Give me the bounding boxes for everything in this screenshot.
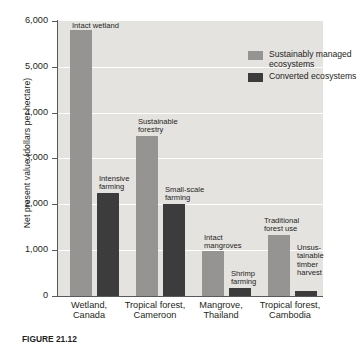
bar-traditional-forest-use [268,235,290,296]
y-tick-label-2000: 2,000 [25,198,48,208]
legend-label-sustainably-managed: Sustainably managed ecosystems [269,50,352,69]
bar-small-scale-farming [163,204,185,296]
y-tick-1000 [52,250,57,251]
y-tick-label-4000: 4,000 [25,107,48,117]
bar-intact-wetland [70,30,92,296]
annotation-unsustainable-timber-harvest: Unsus- tainable timber harvest [297,244,324,278]
legend-item-sustainably-managed: Sustainably managed ecosystems [248,50,361,69]
gridline-4000 [58,113,323,114]
bar-sustainable-forestry [136,136,158,296]
legend-swatch-sustainably-managed [248,51,263,60]
plot-area: Sustainably managed ecosystems Converted… [58,21,323,296]
annotation-intensive-farming: Intensive farming [99,175,129,192]
y-tick-label-3000: 3,000 [25,152,48,162]
y-tick-2000 [52,204,57,205]
y-tick-label-0: 0 [43,290,48,300]
x-category-label-tropical-forest-cambodia: Tropical forest, Cambodia [252,300,328,321]
annotation-shrimp-farming: Shrimp farming [231,270,256,287]
y-axis-line [57,20,58,297]
legend-label-converted: Converted ecosystems [269,72,356,82]
y-tick-label-6000: 6,000 [25,15,48,25]
y-tick-6000 [52,21,57,22]
y-tick-label-5000: 5,000 [25,61,48,71]
legend: Sustainably managed ecosystems Converted… [248,50,361,85]
annotation-small-scale-farming: Small-scale farming [165,186,204,203]
y-tick-0 [52,296,57,297]
x-category-label-tropical-forest-cameroon: Tropical forest, Cameroon [120,300,190,321]
y-tick-3000 [52,158,57,159]
y-tick-label-1000: 1,000 [25,244,48,254]
legend-swatch-converted [248,73,263,82]
y-tick-5000 [52,67,57,68]
legend-item-converted: Converted ecosystems [248,72,361,82]
gridline-3000 [58,158,323,159]
x-category-label-mangrove-thailand: Mangrove, Thailand [189,300,253,321]
bar-intact-mangroves [202,251,224,296]
bar-shrimp-farming [229,288,251,296]
bar-intensive-farming [97,193,119,296]
annotation-traditional-forest-use: Traditional forest use [264,217,299,234]
x-axis-line [57,296,323,297]
y-tick-4000 [52,113,57,114]
annotation-sustainable-forestry: Sustainable forestry [138,118,178,135]
annotation-intact-wetland: Intact wetland [72,22,119,30]
x-category-label-wetland-canada: Wetland, Canada [56,300,122,321]
annotation-intact-mangroves: Intact mangroves [204,234,242,251]
figure-caption: FIGURE 21.12 [22,334,339,343]
